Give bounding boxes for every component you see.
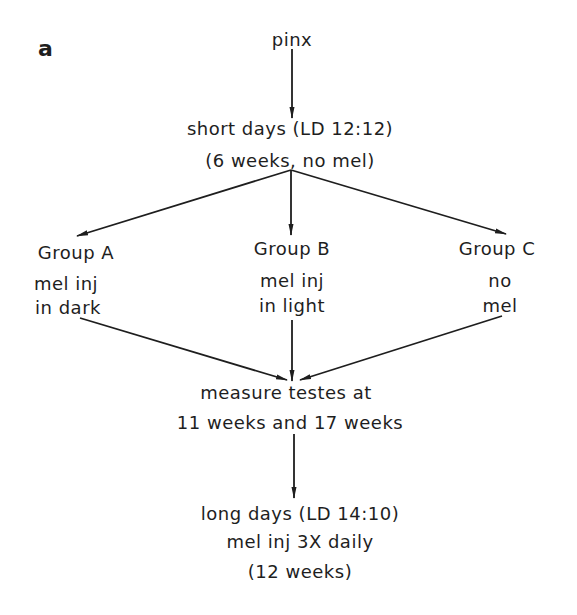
group-c-line1: no bbox=[488, 272, 511, 290]
node-measure-line2: 11 weeks and 17 weeks bbox=[177, 414, 403, 432]
group-a-line2: in dark bbox=[35, 299, 101, 317]
group-b-line2: in light bbox=[259, 297, 325, 315]
node-measure-line1: measure testes at bbox=[200, 384, 372, 402]
group-a-title: Group A bbox=[38, 244, 114, 262]
arrow-group-c-to-measure bbox=[300, 316, 502, 380]
node-long-days-line3: (12 weeks) bbox=[248, 563, 352, 581]
group-b-title: Group B bbox=[254, 240, 330, 258]
group-a-line1: mel inj bbox=[34, 275, 98, 293]
arrow-to-group-c bbox=[291, 170, 506, 234]
group-c-title: Group C bbox=[459, 240, 536, 258]
group-b-line1: mel inj bbox=[260, 272, 324, 290]
arrow-to-group-a bbox=[77, 170, 291, 236]
node-short-days-line2: (6 weeks, no mel) bbox=[205, 152, 375, 170]
node-pinx: pinx bbox=[272, 31, 313, 49]
group-c-line2: mel bbox=[482, 297, 517, 315]
node-long-days-line2: mel inj 3X daily bbox=[226, 533, 373, 551]
node-short-days-line1: short days (LD 12:12) bbox=[187, 120, 393, 138]
arrow-group-a-to-measure bbox=[80, 318, 287, 380]
node-long-days-line1: long days (LD 14:10) bbox=[201, 505, 399, 523]
